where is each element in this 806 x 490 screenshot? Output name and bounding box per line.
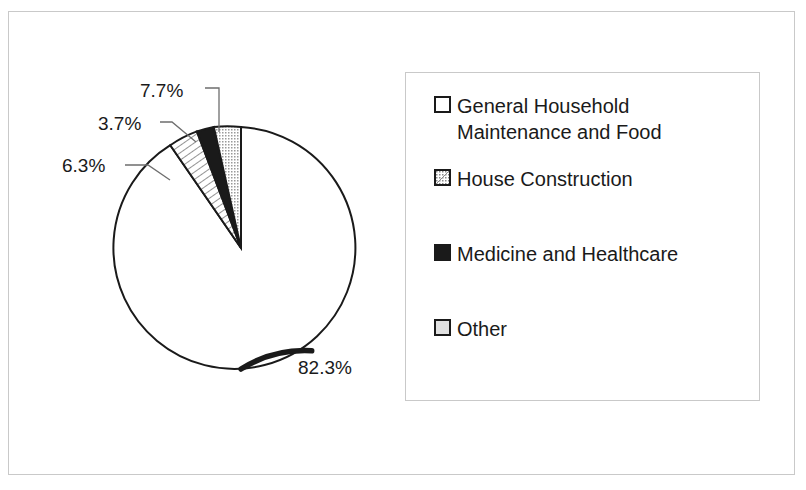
legend-label-house-construction: House Construction	[457, 166, 633, 192]
pie-label-other: 6.3%	[62, 155, 105, 177]
legend-item-general-household[interactable]: General Household Maintenance and Food	[434, 93, 662, 145]
legend-swatch-hatched-icon	[434, 169, 451, 186]
chart-screenshot: 7.7% 3.7% 6.3% 82.3% General Household M…	[0, 0, 806, 490]
pie-label-house-construction: 7.7%	[140, 80, 183, 102]
legend-item-other[interactable]: Other	[434, 316, 507, 342]
legend-item-medicine[interactable]: Medicine and Healthcare	[434, 241, 678, 267]
legend-label-general-household: General Household Maintenance and Food	[457, 93, 662, 145]
leader-line-house-construction	[205, 88, 219, 132]
pie-label-medicine: 3.7%	[98, 113, 141, 135]
legend-swatch-light-gray-icon	[434, 319, 451, 336]
chart-legend: General Household Maintenance and Food H…	[405, 72, 760, 401]
legend-swatch-white-icon	[434, 96, 451, 113]
pie-label-general-household: 82.3%	[298, 357, 352, 379]
legend-label-other: Other	[457, 316, 507, 342]
legend-label-medicine: Medicine and Healthcare	[457, 241, 678, 267]
legend-swatch-black-icon	[434, 244, 451, 261]
legend-item-house-construction[interactable]: House Construction	[434, 166, 633, 192]
